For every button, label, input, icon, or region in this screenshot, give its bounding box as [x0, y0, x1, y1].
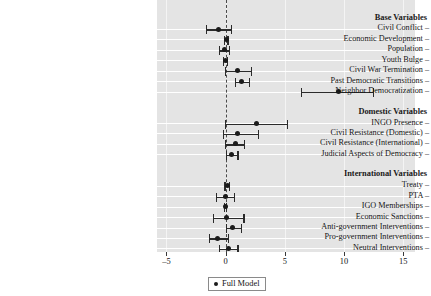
x-axis-tick-label: 0: [211, 257, 241, 266]
x-axis-tick-label: 10: [329, 257, 359, 266]
point-estimate-civil-resistance-international: [233, 141, 238, 146]
x-axis: –5051015: [157, 252, 415, 274]
legend-label-full-model: Full Model: [222, 279, 259, 288]
point-estimate-judicial-aspects-of-democracy: [229, 152, 234, 157]
point-estimate-neutral-interventions: [226, 246, 231, 251]
section-header-domestic-variables: Domestic Variables: [274, 107, 431, 117]
ci-cap-low-ingo-presence: [225, 120, 226, 129]
point-estimate-ingo-presence: [254, 121, 259, 126]
ci-cap-low-civil-resistance-domestic: [223, 130, 224, 139]
x-axis-tick-label: 5: [270, 257, 300, 266]
ci-cap-high-pro-government-interventions: [228, 234, 229, 243]
ci-cap-low-civil-resistance-international: [225, 140, 226, 149]
point-estimate-youth-bulge: [223, 58, 228, 63]
y-axis-label-ingo-presence: INGO Presence –: [274, 118, 431, 128]
ci-cap-low-pta: [216, 193, 217, 202]
ci-cap-low-past-democratic-transitions: [235, 78, 236, 87]
y-axis-label-treaty: Treaty –: [274, 180, 431, 190]
y-axis-label-neighbor-democratization: Neighbor Democratization –: [274, 86, 431, 96]
ci-cap-high-pta: [234, 193, 235, 202]
ci-cap-high-anti-government-interventions: [241, 224, 242, 233]
point-estimate-pro-government-interventions: [215, 236, 220, 241]
ci-cap-high-civil-conflict: [231, 25, 232, 34]
point-estimate-anti-government-interventions: [230, 225, 235, 230]
section-header-base-variables: Base Variables: [274, 13, 431, 23]
point-estimate-civil-resistance-domestic: [235, 131, 240, 136]
legend: Full Model: [208, 277, 266, 291]
y-axis-label-youth-bulge: Youth Bulge –: [274, 55, 431, 65]
ci-cap-low-anti-government-interventions: [226, 224, 227, 233]
y-axis-label-civil-resistance-international: Civil Resistance (International) –: [274, 138, 431, 148]
ci-cap-low-neutral-interventions: [219, 245, 220, 252]
y-axis-label-pro-government-interventions: Pro-government Interventions –: [274, 232, 431, 242]
point-estimate-civil-conflict: [216, 27, 221, 32]
ci-cap-high-civil-resistance-domestic: [258, 130, 259, 139]
y-axis-label-civil-resistance-domestic: Civil Resistance (Domestic) –: [274, 128, 431, 138]
ci-cap-high-population: [229, 46, 230, 55]
y-axis-label-judicial-aspects-of-democracy: Judicial Aspects of Democracy –: [274, 149, 431, 159]
ci-cap-low-pro-government-interventions: [209, 234, 210, 243]
point-estimate-past-democratic-transitions: [239, 79, 244, 84]
y-axis-label-pta: PTA –: [274, 191, 431, 201]
ci-cap-high-civil-resistance-international: [244, 140, 245, 149]
y-axis-label-economic-sanctions: Economic Sanctions –: [274, 212, 431, 222]
section-header-international-variables: International Variables: [274, 169, 431, 179]
point-estimate-civil-war-termination: [235, 68, 240, 73]
y-axis-label-civil-war-termination: Civil War Termination –: [274, 65, 431, 75]
y-axis-label-civil-conflict: Civil Conflict –: [274, 23, 431, 33]
x-axis-tick: [285, 252, 286, 256]
x-axis-tick: [166, 252, 167, 256]
point-estimate-pta: [223, 194, 228, 199]
y-axis-label-igo-memberships: IGO Memberships –: [274, 201, 431, 211]
ci-cap-low-civil-war-termination: [225, 67, 226, 76]
ci-cap-high-neutral-interventions: [237, 245, 238, 252]
ci-cap-high-economic-sanctions: [243, 214, 244, 223]
ci-cap-high-judicial-aspects-of-democracy: [237, 151, 238, 160]
y-axis-label-anti-government-interventions: Anti-government Interventions –: [274, 222, 431, 232]
ci-cap-low-civil-conflict: [206, 25, 207, 34]
coefficient-plot-figure: Base VariablesCivil Conflict –Economic D…: [0, 0, 431, 296]
x-axis-tick-label: –5: [151, 257, 181, 266]
ci-cap-low-economic-sanctions: [213, 214, 214, 223]
point-estimate-economic-development: [224, 37, 229, 42]
x-axis-tick-label: 15: [388, 257, 418, 266]
confidence-interval-civil-resistance-domestic: [224, 134, 259, 135]
legend-marker-icon: [214, 282, 218, 286]
x-axis-tick: [226, 252, 227, 256]
ci-cap-high-past-democratic-transitions: [249, 78, 250, 87]
x-axis-tick: [403, 252, 404, 256]
ci-cap-high-civil-war-termination: [251, 67, 252, 76]
y-axis-label-past-democratic-transitions: Past Democratic Transitions –: [274, 76, 431, 86]
y-axis-label-economic-development: Economic Development –: [274, 34, 431, 44]
ci-cap-low-population: [219, 46, 220, 55]
y-axis-label-population: Population –: [274, 44, 431, 54]
point-estimate-population: [222, 47, 227, 52]
point-estimate-economic-sanctions: [224, 215, 229, 220]
x-axis-tick: [344, 252, 345, 256]
ci-cap-low-judicial-aspects-of-democracy: [226, 151, 227, 160]
